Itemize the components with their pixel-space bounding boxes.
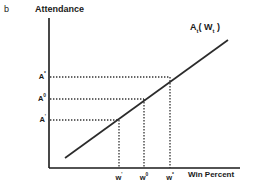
attendance-win-percent-figure: b Attendance Win Percent At( Wt ) A* A0 … [0, 0, 256, 192]
plot-area [0, 0, 256, 192]
